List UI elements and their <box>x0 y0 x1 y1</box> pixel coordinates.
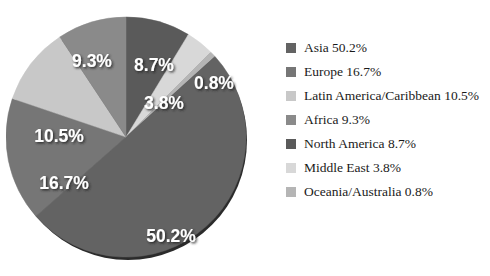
pie-slice-label: 8.7% <box>134 55 174 75</box>
legend-color-swatch <box>286 115 296 125</box>
pie-chart: 8.7%3.8%0.8%50.2%16.7%10.5%9.3% <box>6 14 250 264</box>
legend-color-swatch <box>286 187 296 197</box>
legend-item[interactable]: Europe 16.7% <box>286 60 486 84</box>
legend-color-swatch <box>286 163 296 173</box>
legend-item[interactable]: Asia 50.2% <box>286 36 486 60</box>
pie-slice-label: 50.2% <box>146 226 196 246</box>
pie-slice-label: 9.3% <box>72 51 112 71</box>
legend-color-swatch <box>286 139 296 149</box>
pie-slice-label: 10.5% <box>34 126 84 146</box>
legend-item-label: Africa 9.3% <box>304 113 370 127</box>
legend-item-label: Europe 16.7% <box>304 65 381 79</box>
legend-item-label: Middle East 3.8% <box>304 161 401 175</box>
legend-item[interactable]: Latin America/Caribbean 10.5% <box>286 84 486 108</box>
legend-item[interactable]: Oceania/Australia 0.8% <box>286 180 486 204</box>
pie-chart-svg: 8.7%3.8%0.8%50.2%16.7%10.5%9.3% <box>6 14 250 264</box>
legend: Asia 50.2%Europe 16.7%Latin America/Cari… <box>286 36 486 204</box>
pie-chart-page: 8.7%3.8%0.8%50.2%16.7%10.5%9.3% Asia 50.… <box>0 0 490 276</box>
legend-item-label: Asia 50.2% <box>304 41 367 55</box>
legend-item-label: Oceania/Australia 0.8% <box>304 185 433 199</box>
pie-slice-label: 16.7% <box>39 173 89 193</box>
legend-item-label: Latin America/Caribbean 10.5% <box>304 89 479 103</box>
legend-color-swatch <box>286 91 296 101</box>
legend-color-swatch <box>286 43 296 53</box>
pie-slice-label: 3.8% <box>144 93 184 113</box>
legend-item[interactable]: Middle East 3.8% <box>286 156 486 180</box>
pie-slice-label: 0.8% <box>194 73 234 93</box>
legend-item[interactable]: North America 8.7% <box>286 132 486 156</box>
legend-item[interactable]: Africa 9.3% <box>286 108 486 132</box>
legend-item-label: North America 8.7% <box>304 137 416 151</box>
legend-color-swatch <box>286 67 296 77</box>
